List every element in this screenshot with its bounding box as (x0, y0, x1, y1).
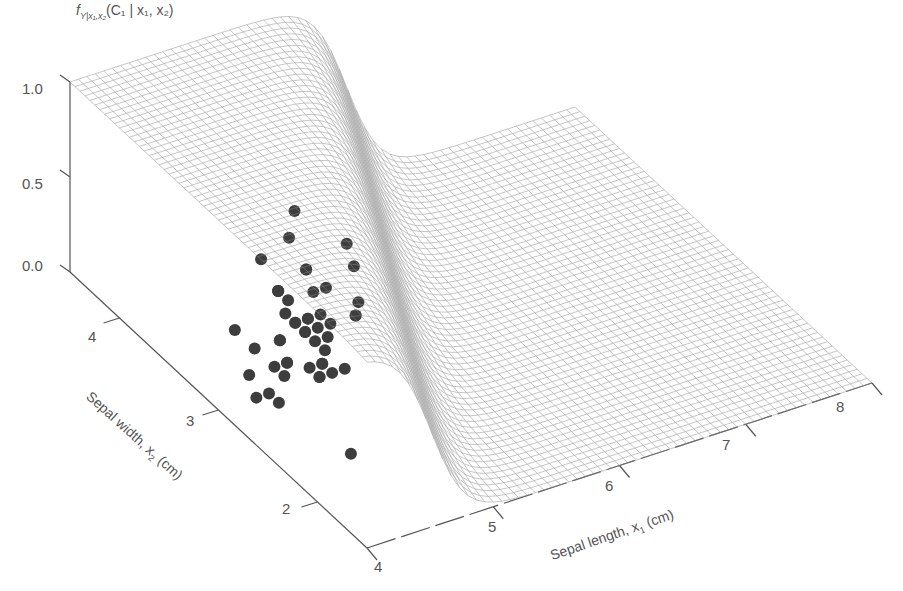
data-point-marker (345, 448, 357, 460)
data-point-marker (263, 388, 275, 400)
data-point-marker (250, 392, 262, 404)
mesh-line (575, 107, 872, 383)
data-point-marker (304, 362, 316, 374)
z-axis-title: fY|x₁,x₂(C₁ | x₁, x₂) (76, 2, 174, 21)
z-axis-title-rest: (C₁ | x₁, x₂) (106, 2, 174, 18)
y-tick-2: 2 (282, 500, 290, 517)
data-point-marker (273, 397, 285, 409)
y-tick-3: 3 (186, 412, 194, 429)
x-tick-mark (620, 466, 630, 478)
surface-mesh (70, 16, 872, 502)
mesh-line (255, 22, 552, 487)
mesh-line (139, 97, 644, 237)
data-point-marker (279, 308, 291, 320)
x-tick-4: 4 (374, 558, 382, 575)
mesh-line (331, 51, 628, 463)
z-tick-mark (60, 75, 70, 82)
mesh-line (303, 287, 808, 427)
data-point-marker (272, 285, 284, 297)
data-point-marker (322, 331, 334, 343)
data-point-marker (282, 294, 294, 306)
data-point-marker (281, 357, 293, 369)
mesh-line (390, 154, 687, 443)
data-point-marker (243, 369, 255, 381)
data-point-marker (309, 335, 321, 347)
mesh-line (194, 160, 699, 300)
x-tick-mark (493, 507, 503, 519)
data-point-marker (302, 313, 314, 325)
mesh-line (263, 241, 768, 381)
y-tick-mark (302, 502, 318, 507)
z-tick-0-0: 0.0 (22, 257, 43, 274)
y-tick-mark (203, 410, 219, 415)
mesh-line (323, 36, 620, 465)
z-axis-title-sub: Y|x₁,x₂ (80, 11, 106, 21)
z-tick-mark (60, 265, 70, 272)
data-point-marker (274, 334, 286, 346)
data-point-marker (229, 324, 241, 336)
data-point-marker (339, 363, 351, 375)
z-tick-mark (60, 170, 70, 177)
y-tick-4: 4 (88, 328, 96, 345)
mesh-line (264, 20, 561, 485)
data-point-marker (326, 367, 338, 379)
mesh-line (70, 16, 575, 156)
data-point-marker (299, 326, 311, 338)
data-point-marker (316, 358, 328, 370)
surface-plot (0, 0, 903, 591)
data-point-marker (312, 322, 324, 334)
data-point-marker (249, 342, 261, 354)
data-point-marker (268, 361, 280, 373)
data-point-marker (319, 344, 331, 356)
x-tick-5: 5 (488, 518, 496, 535)
x-tick-7: 7 (722, 436, 730, 453)
x-tick-6: 6 (605, 477, 613, 494)
data-point-marker (320, 282, 332, 294)
x-tick-mark (872, 383, 882, 395)
y-tick-mark (104, 318, 120, 323)
mesh-line (238, 27, 535, 492)
mesh-line (95, 74, 392, 367)
x-tick-8: 8 (836, 398, 844, 415)
z-tick-1-0: 1.0 (22, 80, 43, 97)
data-point-marker (278, 370, 290, 382)
data-point-marker (341, 238, 353, 250)
x-tick-mark (746, 424, 756, 436)
z-tick-0-5: 0.5 (22, 175, 43, 192)
data-point-marker (314, 371, 326, 383)
mesh-line (75, 22, 580, 162)
data-point-marker (289, 317, 301, 329)
data-point-marker (324, 318, 336, 330)
